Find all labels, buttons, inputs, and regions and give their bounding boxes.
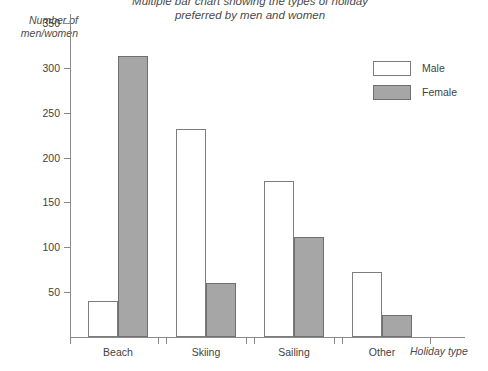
x-tick [334, 337, 335, 344]
bar-beach-male[interactable] [88, 301, 118, 337]
bar-other-male[interactable] [352, 272, 382, 337]
y-tick-250 [64, 113, 71, 114]
y-tick-300 [64, 68, 71, 69]
x-tick [342, 337, 343, 344]
x-axis-line [70, 337, 465, 338]
y-tick-label-200: 200 [26, 153, 60, 164]
x-tick-label-sailing: Sailing [278, 346, 310, 358]
legend-swatch-female-icon [373, 85, 411, 100]
y-tick-50 [64, 292, 71, 293]
x-axis-title: Holiday type [410, 345, 468, 357]
x-tick [166, 337, 167, 344]
x-tick [158, 337, 159, 344]
bar-skiing-female[interactable] [206, 283, 236, 337]
x-tick [430, 337, 431, 344]
y-tick-150 [64, 202, 71, 203]
bar-sailing-female[interactable] [294, 237, 324, 337]
bar-beach-female[interactable] [118, 56, 148, 337]
legend-item-male[interactable]: Male [373, 56, 457, 80]
y-tick-label-350: 350 [26, 18, 60, 29]
x-tick [254, 337, 255, 344]
y-tick-350 [64, 23, 71, 24]
bar-sailing-male[interactable] [264, 181, 294, 337]
y-tick-label-50: 50 [26, 287, 60, 298]
y-tick-label-150: 150 [26, 197, 60, 208]
x-tick-label-other: Other [369, 346, 395, 358]
x-tick [246, 337, 247, 344]
x-tick-label-beach: Beach [103, 346, 133, 358]
legend-label-female: Female [422, 86, 457, 98]
bar-other-female[interactable] [382, 315, 412, 337]
chart-legend: Male Female [373, 56, 457, 104]
y-tick-200 [64, 158, 71, 159]
y-tick-label-300: 300 [26, 63, 60, 74]
y-axis-line [70, 14, 71, 338]
legend-label-male: Male [422, 62, 445, 74]
bar-skiing-male[interactable] [176, 129, 206, 337]
y-tick-100 [64, 247, 71, 248]
legend-swatch-male-icon [373, 61, 411, 76]
y-tick-label-250: 250 [26, 108, 60, 119]
legend-item-female[interactable]: Female [373, 80, 457, 104]
x-tick-label-skiing: Skiing [192, 346, 221, 358]
x-tick [70, 337, 71, 344]
y-tick-label-100: 100 [26, 242, 60, 253]
